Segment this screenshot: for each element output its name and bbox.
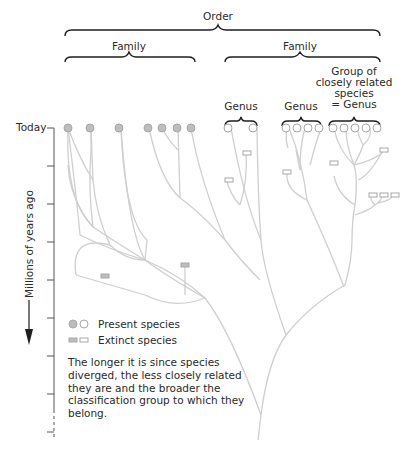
present-species-node [282,124,290,132]
extinct-species-node [369,193,377,197]
explanation-note: The longer it is since species diverged,… [68,356,268,420]
order-brace [65,25,380,36]
order-label: Order [203,10,233,22]
family-left-label: Family [112,40,146,52]
present-species-node [224,124,232,132]
present-species-node [315,124,323,132]
present-species-node [158,124,166,132]
genus-1-label: Genus [224,100,257,112]
today-label: Today [16,121,46,133]
present-species-node [304,124,312,132]
extinct-species-node [101,274,109,278]
down-arrow-icon [25,300,33,345]
present-species-node [173,124,181,132]
extinct-species-node [380,148,388,152]
family-right-brace [225,52,380,62]
present-species-node [115,124,123,132]
extinct-species-node [380,193,388,197]
family-right-label: Family [283,40,317,52]
present-species-node [187,124,195,132]
present-species-node [64,124,72,132]
extinct-species-node [330,161,338,165]
legend-extinct-label: Extinct species [98,334,177,346]
present-species-node [373,124,381,132]
present-species-node [293,124,301,132]
present-species-node [362,124,370,132]
present-filled-icon [69,320,77,328]
extinct-species-node [225,178,233,182]
extinct-species-node [243,151,251,155]
extinct-open-icon [80,338,88,342]
legend-present-label: Present species [98,318,180,330]
present-species-node [340,124,348,132]
legend-symbols [69,320,88,342]
present-species-nodes [64,124,381,132]
genus-group-line: = Genus [316,99,393,110]
genus-group-label: Group of closely related species = Genus [316,66,393,110]
axis-label: Millions of years ago [23,190,35,298]
present-species-node [329,124,337,132]
present-species-node [86,124,94,132]
extinct-species-node [283,170,291,174]
time-axis [47,128,54,440]
present-species-node [351,124,359,132]
present-species-node [249,124,257,132]
extinct-filled-icon [69,338,77,342]
present-species-node [144,124,152,132]
family-left-brace [65,52,195,62]
genus-2-label: Genus [284,100,317,112]
extinct-species-node [391,193,399,197]
present-open-icon [80,320,88,328]
extinct-species-node [181,263,189,267]
